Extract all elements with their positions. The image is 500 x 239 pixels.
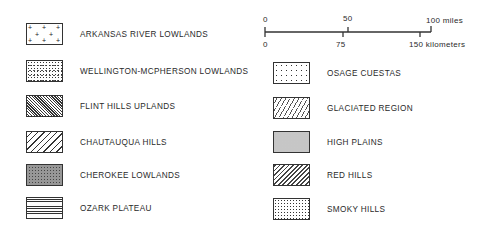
legend-label: RED HILLS [327, 171, 372, 180]
fine-stipple-pattern-swatch [273, 131, 310, 153]
sparse-dots-pattern-swatch [26, 60, 63, 82]
legend-item-arkansas-river-lowlands: +++ ++ +++ ARKANSAS RIVER LOWLANDS [26, 23, 208, 45]
legend-item-chautauqua-hills: CHAUTAUQUA HILLS [26, 131, 167, 153]
legend-item-cherokee-lowlands: CHEROKEE LOWLANDS [26, 164, 180, 186]
legend-item-red-hills: RED HILLS [273, 164, 372, 186]
legend-label: ARKANSAS RIVER LOWLANDS [80, 30, 208, 39]
regular-dots-pattern-swatch [273, 198, 310, 220]
medium-hatch-pattern-swatch [273, 164, 310, 186]
legend-item-ozark-plateau: OZARK PLATEAU [26, 197, 152, 219]
scale-km-end: 150 kilometers [409, 40, 465, 49]
legend-label: FLINT HILLS UPLANDS [80, 102, 175, 111]
legend-label: CHAUTAUQUA HILLS [80, 138, 167, 147]
legend-label: OSAGE CUESTAS [327, 69, 401, 78]
stipple-pattern-swatch [26, 164, 63, 186]
legend-item-wellington-mcpherson-lowlands: WELLINGTON-MCPHERSON LOWLANDS [26, 60, 248, 82]
legend-item-smoky-hills: SMOKY HILLS [273, 198, 385, 220]
legend-label: SMOKY HILLS [327, 205, 385, 214]
scattered-ticks-pattern-swatch [273, 62, 310, 84]
legend-item-flint-hills-uplands: FLINT HILLS UPLANDS [26, 95, 175, 117]
dense-hatch-pattern-swatch [26, 95, 63, 117]
legend-item-high-plains: HIGH PLAINS [273, 131, 383, 153]
horizontal-lines-pattern-swatch [26, 197, 63, 219]
legend-label: OZARK PLATEAU [80, 204, 152, 213]
legend-label: CHEROKEE LOWLANDS [80, 171, 180, 180]
plus-pattern-swatch: +++ ++ +++ [26, 23, 63, 45]
legend-item-osage-cuestas: OSAGE CUESTAS [273, 62, 401, 84]
scale-miles-start: 0 [263, 15, 268, 24]
legend-label: HIGH PLAINS [327, 138, 383, 147]
legend-label: WELLINGTON-MCPHERSON LOWLANDS [80, 67, 248, 76]
legend-label: GLACIATED REGION [327, 104, 413, 113]
scale-km-start: 0 [263, 40, 268, 49]
scale-km-mid: 75 [336, 40, 346, 49]
scale-line [262, 24, 437, 40]
wide-hatch-pattern-swatch [26, 131, 63, 153]
dashed-diagonal-pattern-swatch [273, 97, 310, 119]
scale-miles-mid: 50 [343, 14, 353, 23]
legend-item-glaciated-region: GLACIATED REGION [273, 97, 413, 119]
